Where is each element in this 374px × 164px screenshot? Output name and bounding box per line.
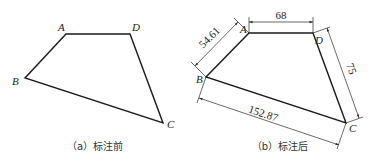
vertex-label-b-C: C xyxy=(349,122,357,134)
dimension-text-AB: 54.61 xyxy=(196,24,222,50)
vertex-label-a-B: B xyxy=(12,75,19,87)
vertex-label-b-D: D xyxy=(314,34,323,46)
vertex-label-a-C: C xyxy=(167,118,175,130)
caption-b: （b）标注后 xyxy=(252,140,308,152)
dimension-text-BC: 152.87 xyxy=(247,103,280,124)
vertex-label-a-A: A xyxy=(57,21,65,33)
dimension-text-DC: 75 xyxy=(344,61,359,76)
dimension-BC: 152.87 xyxy=(197,77,346,149)
quadrilateral-a xyxy=(25,34,163,123)
quadrilateral-b xyxy=(206,33,346,123)
diagram-canvas: A D B C （a）标注前 68 54.61 75 xyxy=(0,0,374,164)
vertex-label-b-A: A xyxy=(239,23,247,35)
dimension-text-AD: 68 xyxy=(276,9,288,21)
figure-a: A D B C （a）标注前 xyxy=(12,21,175,152)
vertex-label-b-B: B xyxy=(196,73,203,85)
figure-b: 68 54.61 75 152.87 A D B C （b）标注后 xyxy=(191,9,363,152)
dimension-AD: 68 xyxy=(249,9,313,33)
vertex-label-a-D: D xyxy=(131,21,140,33)
caption-a: （a）标注前 xyxy=(67,140,123,152)
